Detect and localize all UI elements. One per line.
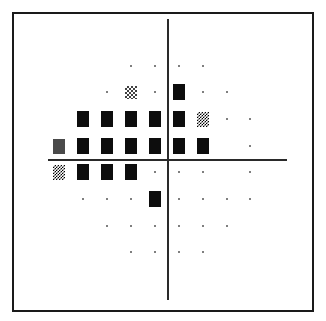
field-point-dot-icon <box>130 65 132 67</box>
field-point-dot-icon <box>249 171 251 173</box>
field-point-black-icon <box>125 138 137 154</box>
field-point-checker-light-icon <box>125 86 137 99</box>
field-point-dot-icon <box>178 65 180 67</box>
field-point-black-icon <box>77 138 89 154</box>
field-point-black-icon <box>101 138 113 154</box>
field-point-black-icon <box>149 138 161 154</box>
field-point-dot-icon <box>226 198 228 200</box>
field-point-dot-icon <box>202 198 204 200</box>
field-point-dot-icon <box>178 225 180 227</box>
field-point-dot-icon <box>178 198 180 200</box>
field-point-dot-icon <box>178 251 180 253</box>
field-point-black-icon <box>77 111 89 127</box>
field-point-black-icon <box>77 164 89 180</box>
field-point-black-icon <box>173 84 185 100</box>
field-point-dot-icon <box>202 65 204 67</box>
field-point-black-icon <box>197 138 209 154</box>
field-point-checker-dense-icon <box>197 112 209 127</box>
field-point-black-icon <box>173 138 185 154</box>
field-point-dot-icon <box>130 225 132 227</box>
field-point-dot-icon <box>130 198 132 200</box>
field-point-dot-icon <box>106 91 108 93</box>
field-point-dot-icon <box>202 91 204 93</box>
horizontal-meridian-axis <box>48 159 287 161</box>
field-point-grey-icon <box>53 139 65 154</box>
field-point-dot-icon <box>226 225 228 227</box>
field-point-dot-icon <box>249 118 251 120</box>
field-point-black-icon <box>149 191 161 207</box>
field-point-dot-icon <box>154 225 156 227</box>
field-point-dot-icon <box>154 171 156 173</box>
field-point-black-icon <box>149 111 161 127</box>
field-point-dot-icon <box>249 145 251 147</box>
field-point-black-icon <box>173 111 185 127</box>
field-point-dot-icon <box>202 171 204 173</box>
field-point-black-icon <box>101 164 113 180</box>
field-point-checker-dense-icon <box>53 165 65 180</box>
field-point-dot-icon <box>130 251 132 253</box>
field-point-dot-icon <box>202 225 204 227</box>
field-point-dot-icon <box>154 65 156 67</box>
field-point-dot-icon <box>82 198 84 200</box>
field-point-dot-icon <box>226 91 228 93</box>
field-point-dot-icon <box>154 251 156 253</box>
field-point-black-icon <box>125 111 137 127</box>
field-point-dot-icon <box>178 171 180 173</box>
field-point-dot-icon <box>226 118 228 120</box>
field-point-dot-icon <box>154 91 156 93</box>
plot-frame <box>12 12 314 312</box>
field-point-black-icon <box>101 111 113 127</box>
field-point-dot-icon <box>106 225 108 227</box>
field-point-black-icon <box>125 164 137 180</box>
field-point-dot-icon <box>249 198 251 200</box>
field-point-dot-icon <box>106 198 108 200</box>
field-point-dot-icon <box>202 251 204 253</box>
